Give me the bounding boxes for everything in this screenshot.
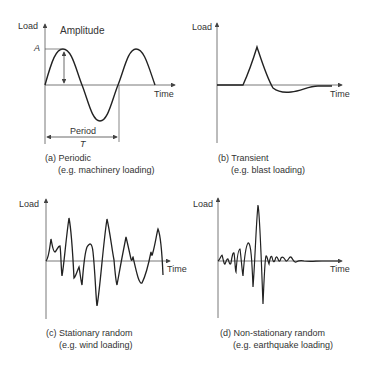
- panel-b-caption-example: (e.g. blast loading): [218, 164, 305, 176]
- panel-c-x-axis-label: Time: [167, 265, 187, 274]
- panel-c-caption-title: (c) Stationary random: [46, 327, 133, 339]
- panel-a-period-symbol: T: [80, 140, 86, 149]
- panel-a-periodic: [45, 24, 175, 144]
- panel-b-caption-title: (b) Transient: [218, 152, 305, 164]
- panel-d-earthquake-curve: [218, 205, 338, 304]
- panel-c-y-axis-label: Load: [19, 200, 39, 209]
- panel-a-y-axis-label: Load: [18, 22, 38, 31]
- panel-d-caption-example: (e.g. earthquake loading): [220, 339, 333, 351]
- panel-a-amplitude-value-label: A: [34, 44, 40, 53]
- panel-d-caption: (d) Non-stationary random (e.g. earthqua…: [220, 327, 333, 351]
- panel-c-stationary-random: [46, 199, 170, 319]
- panel-b-caption: (b) Transient (e.g. blast loading): [218, 152, 305, 176]
- panel-a-period-label: Period: [70, 127, 96, 136]
- panel-b-y-axis-label: Load: [192, 23, 212, 32]
- panel-a-caption-title: (a) Periodic: [45, 152, 155, 164]
- panel-b-x-axis-label: Time: [330, 90, 350, 99]
- panel-c-caption-example: (e.g. wind loading): [46, 339, 133, 351]
- panel-b-transient-curve: [217, 47, 332, 92]
- panel-b-transient: [217, 23, 342, 143]
- panel-c-random-curve: [46, 218, 163, 306]
- panel-a-caption: (a) Periodic (e.g. machinery loading): [45, 152, 155, 176]
- panel-c-caption: (c) Stationary random (e.g. wind loading…: [46, 327, 133, 351]
- panel-d-x-axis-label: Time: [330, 265, 350, 274]
- panel-d-y-axis-label: Load: [193, 200, 213, 209]
- panel-d-nonstationary-random: [218, 198, 342, 318]
- panel-a-amplitude-label: Amplitude: [60, 26, 104, 36]
- panel-a-caption-example: (e.g. machinery loading): [45, 164, 155, 176]
- load-types-diagram: [0, 0, 370, 367]
- panel-a-x-axis-label: Time: [154, 90, 174, 99]
- panel-d-caption-title: (d) Non-stationary random: [220, 327, 333, 339]
